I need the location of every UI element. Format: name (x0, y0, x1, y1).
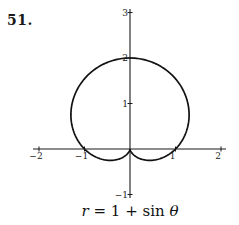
polar-plot: −2−112−1123 (0, 0, 239, 225)
x-tick-label: 2 (215, 151, 221, 161)
y-tick-label: 1 (122, 99, 128, 109)
tick-labels: −2−112−1123 (29, 8, 221, 200)
y-tick-label: 3 (122, 8, 128, 18)
equation-caption: r = 1 + sin θ (0, 202, 239, 220)
caption-theta: θ (169, 202, 178, 220)
x-tick-label: −1 (75, 151, 88, 161)
y-tick-label: −1 (115, 190, 128, 200)
x-tick-label: −2 (29, 151, 42, 161)
caption-variable-r: r (82, 202, 89, 220)
caption-equation-body: = 1 + sin (89, 202, 170, 220)
